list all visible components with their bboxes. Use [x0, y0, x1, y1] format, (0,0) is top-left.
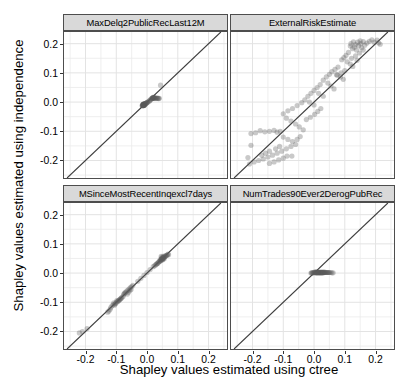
y-axis-tick-label: -0.2 [24, 155, 58, 166]
y-axis-tick-label: 0.1 [24, 238, 58, 249]
y-axis-tick-label: -0.1 [24, 126, 58, 137]
figure-root: Shapley values estimated using independe… [0, 0, 398, 386]
x-axis-tick-mark [283, 351, 284, 354]
facet-panel [63, 31, 228, 179]
x-axis-tick-mark [209, 351, 210, 354]
facet-strip-label: NumTrades90Ever2DerogPubRec [230, 185, 395, 202]
y-axis-tick-label: 0.1 [24, 67, 58, 78]
facet-strip-label: MSinceMostRecentInqexcl7days [63, 185, 228, 202]
x-axis-tick-mark [345, 351, 346, 354]
facet-strip-label: MaxDelq2PublicRecLast12M [63, 14, 228, 31]
y-axis-title: Shapley values estimated using independe… [11, 6, 26, 346]
x-axis-tick-label: 0.2 [356, 354, 396, 365]
x-axis-tick-mark [253, 351, 254, 354]
facet-strip-label: ExternalRiskEstimate [230, 14, 395, 31]
x-axis-tick-mark [314, 351, 315, 354]
x-axis-tick-label: 0.2 [189, 354, 229, 365]
y-axis-tick-label: 0.2 [24, 209, 58, 220]
y-axis-tick-label: 0.0 [24, 268, 58, 279]
x-axis-tick-mark [376, 351, 377, 354]
x-axis-tick-mark [147, 351, 148, 354]
facet-panel [230, 31, 395, 179]
x-axis-tick-mark [116, 351, 117, 354]
y-axis-tick-label: 0.0 [24, 97, 58, 108]
facet-panel [63, 202, 228, 350]
y-axis-tick-label: -0.2 [24, 326, 58, 337]
facet-panel [230, 202, 395, 350]
x-axis-tick-mark [178, 351, 179, 354]
y-axis-tick-label: 0.2 [24, 38, 58, 49]
x-axis-tick-mark [86, 351, 87, 354]
y-axis-tick-label: -0.1 [24, 297, 58, 308]
